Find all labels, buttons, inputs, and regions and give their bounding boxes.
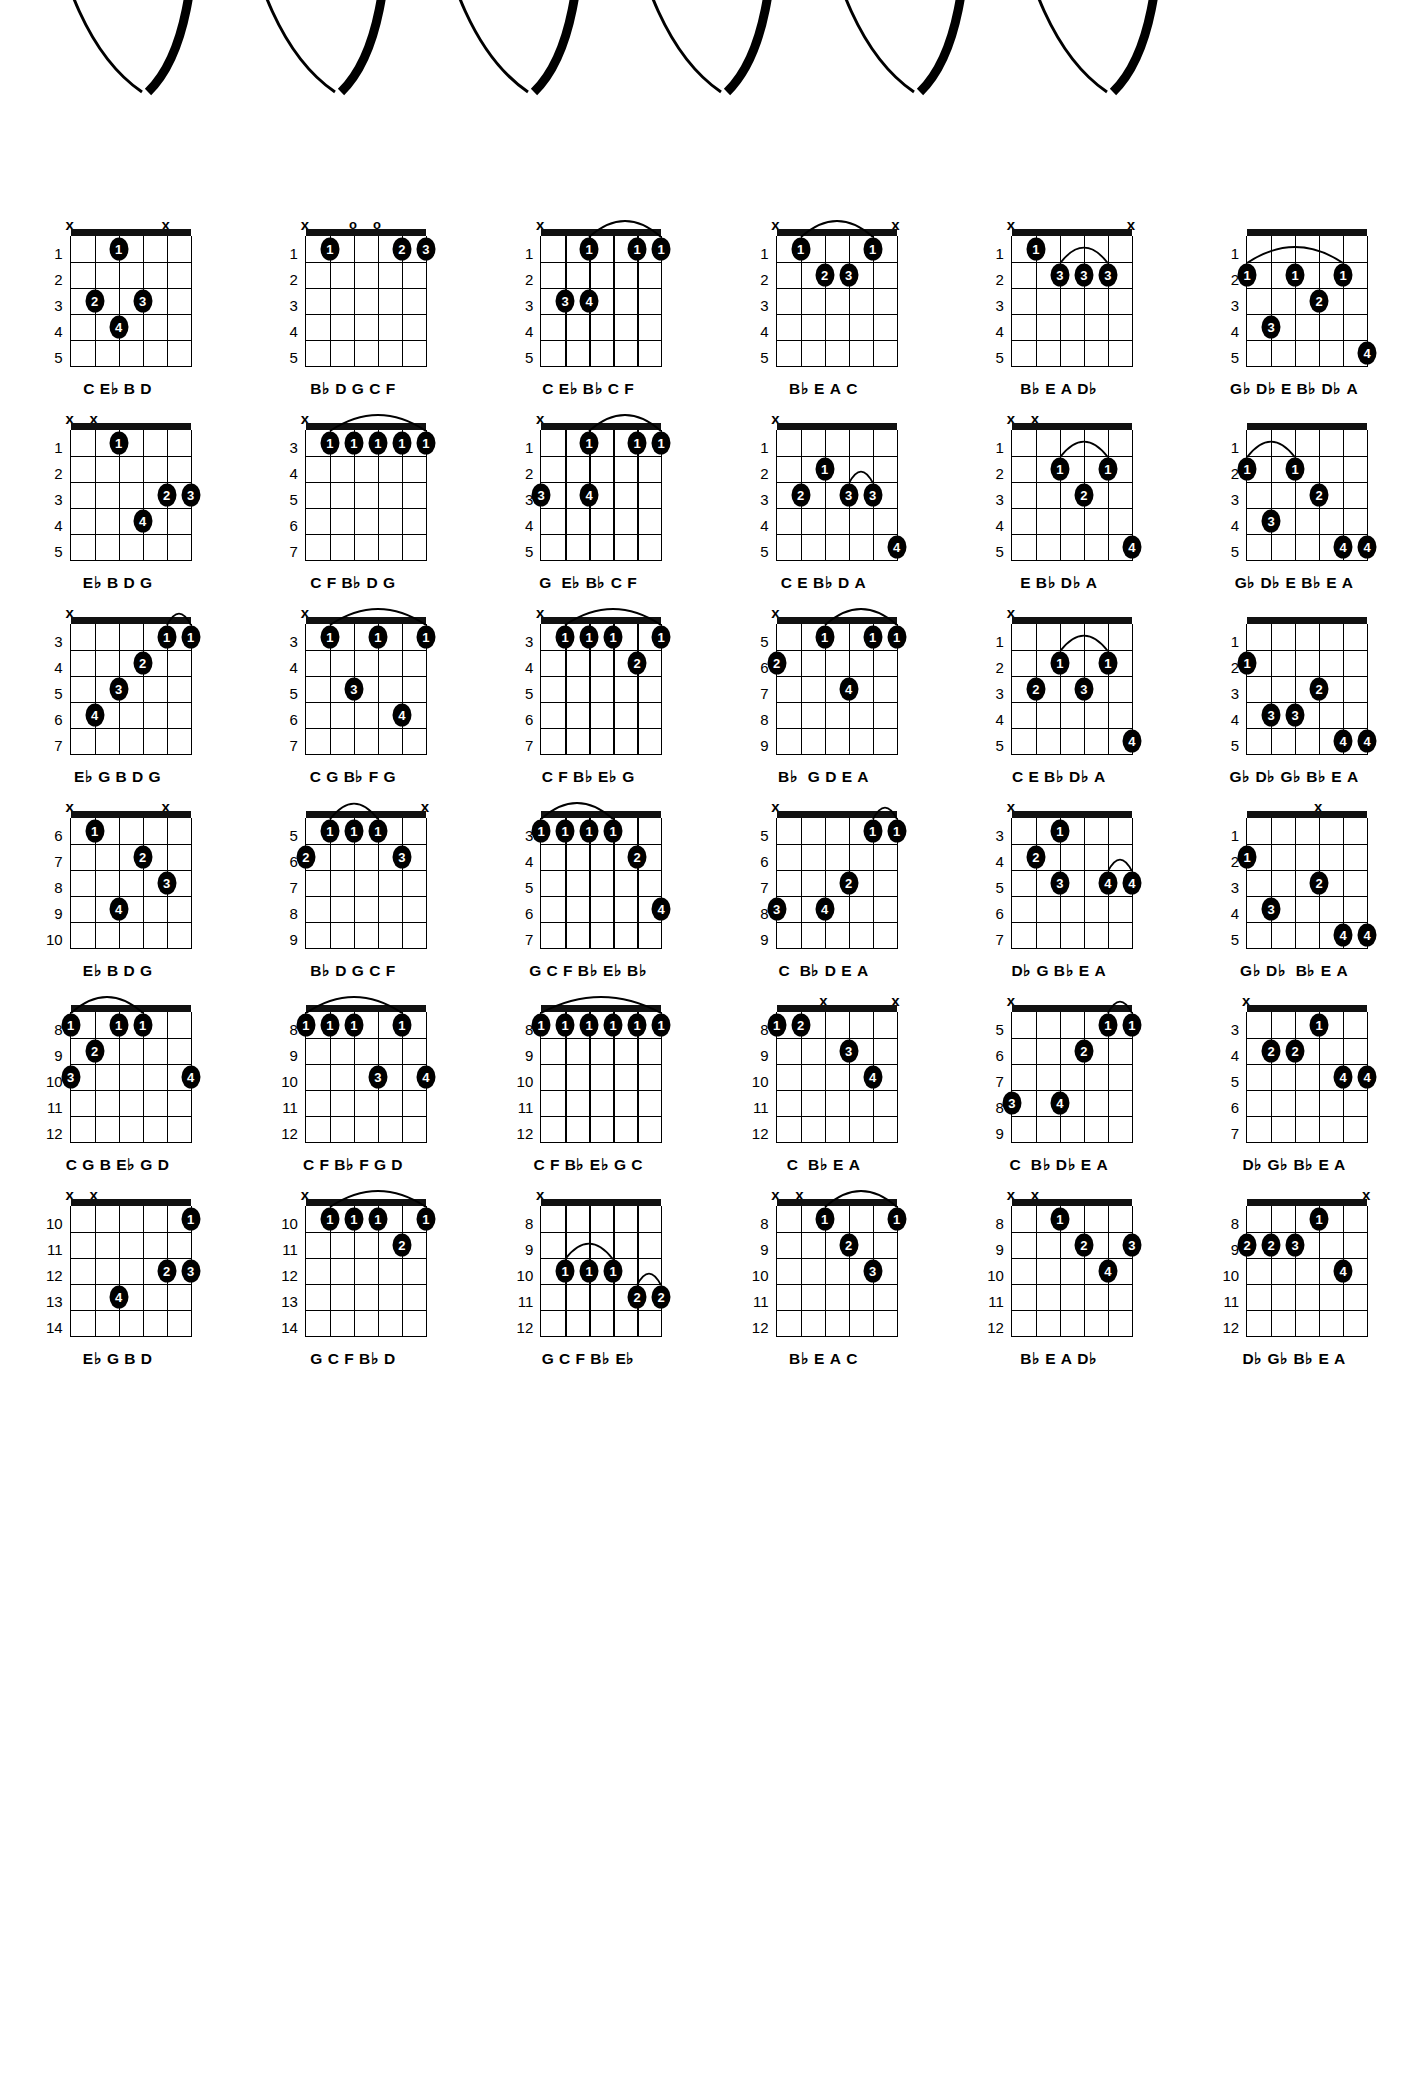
chord-diagram[interactable]: 34567111124 xyxy=(514,818,662,953)
chord-cell[interactable]: xx123451234C E♭ B D xyxy=(0,236,235,398)
finger-dot[interactable]: 1 xyxy=(556,626,575,649)
finger-dot[interactable]: 2 xyxy=(157,484,176,507)
chord-diagram[interactable]: xx6789101234 xyxy=(44,818,192,953)
finger-dot[interactable]: 2 xyxy=(133,652,152,675)
chord-diagram[interactable]: xoo12345123 xyxy=(279,236,427,371)
finger-dot[interactable]: 1 xyxy=(109,238,128,261)
finger-dot[interactable]: 2 xyxy=(1310,678,1329,701)
finger-dot[interactable]: 1 xyxy=(532,820,551,843)
chord-cell[interactable]: 89101112111111C F B♭ E♭ G C xyxy=(471,1012,706,1174)
fretboard[interactable]: 1234 xyxy=(1011,1206,1133,1337)
chord-cell[interactable]: 89101112111134C F B♭ F G D xyxy=(235,1012,470,1174)
finger-dot[interactable]: 3 xyxy=(767,898,786,921)
finger-dot[interactable]: 4 xyxy=(839,678,858,701)
finger-dot[interactable]: 2 xyxy=(1310,484,1329,507)
chord-cell[interactable]: 34567111124G C F B♭ E♭ B♭ xyxy=(471,818,706,980)
finger-dot[interactable]: 1 xyxy=(604,1260,623,1283)
finger-dot[interactable]: 3 xyxy=(157,872,176,895)
chord-cell[interactable]: 89101112111234C G B E♭ G D xyxy=(0,1012,235,1174)
chord-cell[interactable]: x3456712244D♭ G♭ B♭ E A xyxy=(1176,1012,1411,1174)
finger-dot[interactable]: 2 xyxy=(296,846,315,869)
finger-dot[interactable]: 3 xyxy=(344,678,363,701)
finger-dot[interactable]: 1 xyxy=(85,820,104,843)
finger-dot[interactable]: 2 xyxy=(1074,484,1093,507)
finger-dot[interactable]: 4 xyxy=(1122,536,1141,559)
fretboard[interactable]: 1234 xyxy=(776,1012,898,1143)
fretboard[interactable]: 12344 xyxy=(1246,818,1368,949)
finger-dot[interactable]: 1 xyxy=(320,1014,339,1037)
finger-dot[interactable]: 1 xyxy=(628,238,647,261)
chord-diagram[interactable]: x5678911234 xyxy=(750,818,898,953)
finger-dot[interactable]: 1 xyxy=(368,1208,387,1231)
chord-diagram[interactable]: xx891011121234 xyxy=(985,1206,1133,1341)
finger-dot[interactable]: 4 xyxy=(580,484,599,507)
finger-dot[interactable]: 3 xyxy=(61,1066,80,1089)
finger-dot[interactable]: 2 xyxy=(628,846,647,869)
chord-diagram[interactable]: xx123451333 xyxy=(985,236,1133,371)
chord-cell[interactable]: x101112131411112G C F B♭ D xyxy=(235,1206,470,1368)
chord-diagram[interactable]: x8910111212234 xyxy=(1220,1206,1368,1341)
chord-cell[interactable]: x1234511134C E♭ B♭ C F xyxy=(471,236,706,398)
chord-cell[interactable]: xx891011121234B♭ E A D♭ xyxy=(941,1206,1176,1368)
fretboard[interactable]: 1124 xyxy=(1011,430,1133,561)
chord-diagram[interactable]: x3456711234 xyxy=(44,624,192,759)
chord-diagram[interactable]: x5678911234 xyxy=(985,1012,1133,1147)
finger-dot[interactable]: 1 xyxy=(652,238,671,261)
finger-dot[interactable]: 3 xyxy=(1262,704,1281,727)
chord-diagram[interactable]: xx123451123 xyxy=(750,236,898,371)
finger-dot[interactable]: 3 xyxy=(392,846,411,869)
fretboard[interactable]: 12244 xyxy=(1246,1012,1368,1143)
finger-dot[interactable]: 1 xyxy=(1026,238,1045,261)
finger-dot[interactable]: 1 xyxy=(604,626,623,649)
finger-dot[interactable]: 3 xyxy=(863,484,882,507)
finger-dot[interactable]: 4 xyxy=(1358,730,1377,753)
finger-dot[interactable]: 1 xyxy=(863,238,882,261)
finger-dot[interactable]: 4 xyxy=(1122,872,1141,895)
finger-dot[interactable]: 4 xyxy=(1358,342,1377,365)
finger-dot[interactable]: 3 xyxy=(1286,1234,1305,1257)
chord-diagram[interactable]: xx123451124 xyxy=(985,430,1133,565)
finger-dot[interactable]: 3 xyxy=(1122,1234,1141,1257)
fretboard[interactable]: 1123 xyxy=(776,1206,898,1337)
finger-dot[interactable]: 1 xyxy=(1122,1014,1141,1037)
finger-dot[interactable]: 2 xyxy=(85,1040,104,1063)
fretboard[interactable]: 11124 xyxy=(776,624,898,755)
finger-dot[interactable]: 1 xyxy=(556,1014,575,1037)
finger-dot[interactable]: 3 xyxy=(1286,704,1305,727)
finger-dot[interactable]: 1 xyxy=(368,432,387,455)
finger-dot[interactable]: 2 xyxy=(1074,1040,1093,1063)
finger-dot[interactable]: 4 xyxy=(887,536,906,559)
chord-diagram[interactable]: x3456711112 xyxy=(514,624,662,759)
chord-cell[interactable]: x3456711134C G B♭ F G xyxy=(235,624,470,786)
finger-dot[interactable]: 2 xyxy=(839,872,858,895)
finger-dot[interactable]: 1 xyxy=(344,1208,363,1231)
finger-dot[interactable]: 1 xyxy=(815,458,834,481)
finger-dot[interactable]: 1 xyxy=(157,626,176,649)
finger-dot[interactable]: 1 xyxy=(556,820,575,843)
fretboard[interactable]: 12234 xyxy=(1246,1206,1368,1337)
finger-dot[interactable]: 1 xyxy=(133,1014,152,1037)
finger-dot[interactable]: 1 xyxy=(556,1260,575,1283)
finger-dot[interactable]: 4 xyxy=(133,510,152,533)
chord-cell[interactable]: x1234511134G E♭ B♭ C F xyxy=(471,430,706,592)
chord-cell[interactable]: x3456712344D♭ G B♭ E A xyxy=(941,818,1176,980)
chord-cell[interactable]: x3456711112C F B♭ E♭ G xyxy=(471,624,706,786)
finger-dot[interactable]: 1 xyxy=(652,1014,671,1037)
fretboard[interactable]: 111111 xyxy=(540,1012,662,1143)
fretboard[interactable]: 11234 xyxy=(1011,624,1133,755)
chord-cell[interactable]: x8910111211122G C F B♭ E♭ xyxy=(471,1206,706,1368)
finger-dot[interactable]: 4 xyxy=(1122,730,1141,753)
chord-cell[interactable]: x3456711111C F B♭ D G xyxy=(235,430,470,592)
fretboard[interactable]: 11111 xyxy=(305,430,427,561)
finger-dot[interactable]: 1 xyxy=(109,1014,128,1037)
chord-diagram[interactable]: xx891011121234 xyxy=(750,1012,898,1147)
finger-dot[interactable]: 2 xyxy=(392,1234,411,1257)
finger-dot[interactable]: 1 xyxy=(181,626,200,649)
finger-dot[interactable]: 1 xyxy=(320,820,339,843)
finger-dot[interactable]: 4 xyxy=(1050,1092,1069,1115)
finger-dot[interactable]: 3 xyxy=(1098,264,1117,287)
finger-dot[interactable]: 1 xyxy=(1050,652,1069,675)
finger-dot[interactable]: 2 xyxy=(1286,1040,1305,1063)
fretboard[interactable]: 1234 xyxy=(70,236,192,367)
chord-diagram[interactable]: 12345111234 xyxy=(1220,236,1368,371)
